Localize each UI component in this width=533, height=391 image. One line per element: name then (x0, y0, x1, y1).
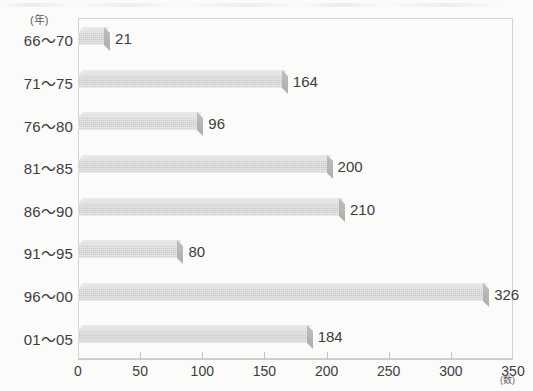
bar: 326 (78, 283, 483, 305)
x-axis-tick-label: 50 (132, 363, 148, 379)
bar-value-label: 96 (208, 115, 225, 132)
bar: 184 (78, 325, 307, 347)
bar-front-face (78, 288, 483, 301)
x-axis-tick-label: 300 (439, 363, 462, 379)
category-label: 96〜00 (24, 285, 73, 306)
bar-front-face (78, 117, 197, 130)
bar-value-label: 326 (494, 286, 519, 303)
bar-row: 96〜00326 (78, 274, 513, 317)
bar-end-cap (197, 112, 203, 136)
bar: 96 (78, 112, 197, 134)
bar-front-face (78, 75, 282, 88)
x-axis-line (78, 359, 513, 360)
category-label: 76〜80 (24, 114, 73, 135)
x-axis-tick-label: 200 (315, 363, 338, 379)
category-label: 01〜05 (24, 327, 73, 348)
x-axis-tick-label: 0 (74, 363, 82, 379)
x-axis-tick (327, 352, 328, 359)
x-axis-tick (389, 352, 390, 359)
category-label: 71〜75 (24, 71, 73, 92)
bar-end-cap (282, 70, 288, 94)
bar: 164 (78, 70, 282, 92)
bar-front-face (78, 330, 307, 343)
bar-row: 66〜7021 (78, 18, 513, 61)
bar-row: 01〜05184 (78, 316, 513, 359)
bar-end-cap (327, 155, 333, 179)
bar-row: 76〜8096 (78, 103, 513, 146)
bar-front-face (78, 245, 177, 258)
x-axis-tick-label: 250 (377, 363, 400, 379)
bar-value-label: 184 (318, 328, 343, 345)
bar-row: 91〜9580 (78, 231, 513, 274)
bar-value-label: 21 (115, 30, 132, 47)
bar-row: 81〜85200 (78, 146, 513, 189)
bar-end-cap (307, 325, 313, 349)
bar-end-cap (483, 283, 489, 307)
x-axis-tick (140, 352, 141, 359)
horizontal-bar-chart: (年) 66〜702171〜7516476〜809681〜8520086〜902… (0, 0, 533, 391)
bar-front-face (78, 32, 104, 45)
x-axis-tick-label: 100 (191, 363, 214, 379)
bar: 80 (78, 240, 177, 262)
bar: 21 (78, 27, 104, 49)
bar-row: 86〜90210 (78, 189, 513, 232)
x-axis-unit-label: (数) (500, 373, 515, 386)
bar-value-label: 210 (350, 201, 375, 218)
bar-value-label: 80 (188, 243, 205, 260)
category-label: 81〜85 (24, 157, 73, 178)
y-axis-unit-label: (年) (30, 11, 48, 27)
bar-value-label: 200 (338, 158, 363, 175)
bar-value-label: 164 (293, 73, 318, 90)
bar: 200 (78, 155, 327, 177)
bar-row: 71〜75164 (78, 61, 513, 104)
x-axis-tick (451, 352, 452, 359)
bar-end-cap (177, 240, 183, 264)
category-label: 86〜90 (24, 199, 73, 220)
bar-end-cap (339, 198, 345, 222)
bar-front-face (78, 160, 327, 173)
x-axis-tick (264, 352, 265, 359)
bar-front-face (78, 203, 339, 216)
bar-end-cap (104, 27, 110, 51)
x-axis-tick-label: 150 (253, 363, 276, 379)
bar: 210 (78, 198, 339, 220)
category-label: 66〜70 (24, 29, 73, 50)
category-label: 91〜95 (24, 242, 73, 263)
x-axis-tick (202, 352, 203, 359)
